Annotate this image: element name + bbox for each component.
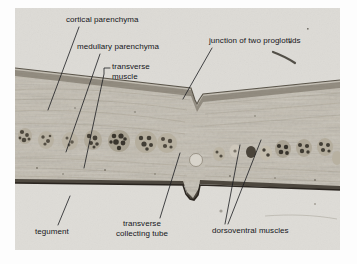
label-transverse-collecting-tube: transverse collecting tube (102, 219, 182, 238)
label-transverse-collecting-tube-line2: collecting tube (102, 229, 182, 239)
label-transverse-muscle-line2: muscle (112, 72, 150, 82)
label-transverse-muscle: transverse muscle (112, 62, 150, 81)
label-cortical-parenchyma: cortical parenchyma (66, 15, 139, 25)
label-medullary-parenchyma: medullary parenchyma (77, 42, 159, 52)
label-transverse-muscle-line1: transverse (112, 62, 150, 72)
label-transverse-collecting-tube-line1: transverse (102, 219, 182, 229)
label-junction-of-two-proglottids: junction of two proglottids (209, 36, 301, 46)
figure-container: cortical parenchyma medullary parenchyma… (0, 0, 357, 264)
label-tegument: tegument (35, 227, 69, 237)
label-dorsoventral-muscles: dorsoventral muscles (212, 226, 289, 236)
